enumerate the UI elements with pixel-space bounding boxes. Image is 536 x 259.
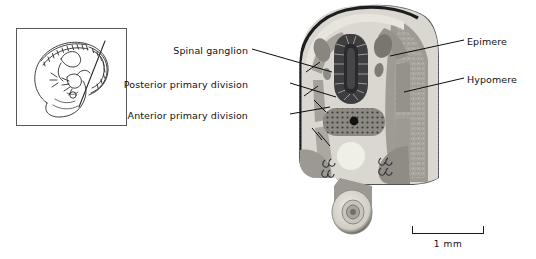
label-posterior-primary-division: Posterior primary division xyxy=(124,79,248,90)
label-anterior-primary-division: Anterior primary division xyxy=(128,110,248,121)
figure-canvas: Spinal ganglion Posterior primary divisi… xyxy=(0,0,536,259)
scale-bar-label: 1 mm xyxy=(412,239,484,249)
scale-bar xyxy=(412,226,484,236)
label-spinal-ganglion: Spinal ganglion xyxy=(173,45,248,56)
scale-bar-tick-left xyxy=(412,226,413,234)
label-hypomere: Hypomere xyxy=(467,74,517,85)
coelomic-cavity xyxy=(337,142,365,170)
neural-tube xyxy=(334,34,368,104)
label-epimere: Epimere xyxy=(467,36,507,47)
dorsal-aorta-region xyxy=(323,108,385,136)
scale-bar-line xyxy=(412,233,484,234)
section-illustration xyxy=(0,0,536,259)
gut-tube xyxy=(332,178,372,234)
scale-bar-tick-right xyxy=(483,226,484,234)
section-body xyxy=(294,4,442,186)
